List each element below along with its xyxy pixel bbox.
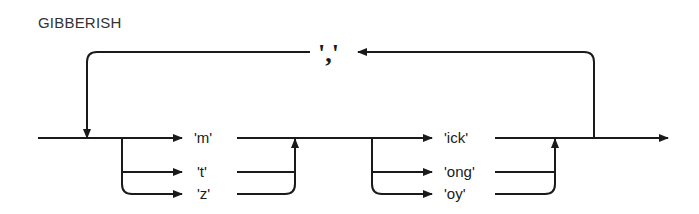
loop-back-track xyxy=(87,52,594,138)
option-ong: 'ong' xyxy=(444,163,475,180)
railroad-diagram: ',' 'm' 't' 'z' 'ick' 'ong' 'oy' xyxy=(0,0,699,214)
option-z: 'z' xyxy=(197,185,210,202)
option-ick: 'ick' xyxy=(444,129,468,146)
option-oy: 'oy' xyxy=(444,185,466,202)
option-m: 'm' xyxy=(194,129,212,146)
separator-label: ',' xyxy=(318,39,339,68)
option-t: 't' xyxy=(197,163,207,180)
